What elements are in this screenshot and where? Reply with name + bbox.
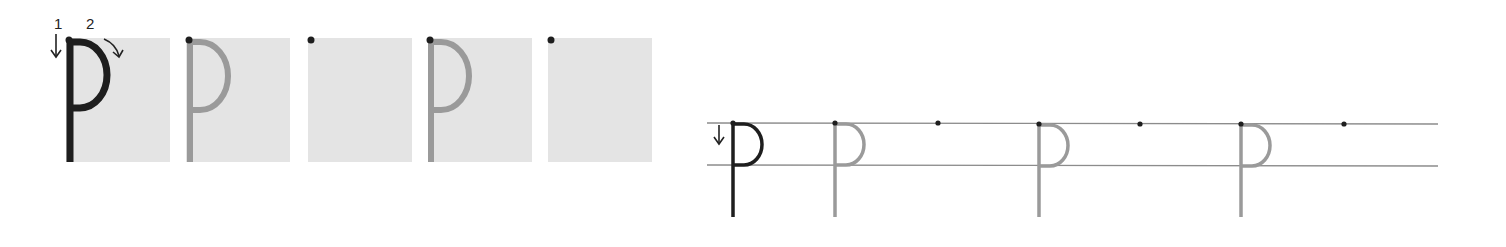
trace-letter-p-small-3 (1241, 124, 1270, 217)
start-dot (1137, 121, 1142, 126)
start-dot (935, 120, 940, 125)
model-letter-p-small (733, 123, 762, 217)
start-dot (1036, 121, 1041, 126)
start-dot (832, 120, 837, 125)
start-dot (1238, 121, 1243, 126)
handwriting-lines (0, 0, 1506, 247)
down-arrow-icon (714, 125, 724, 144)
trace-letter-p-small-1 (835, 123, 864, 217)
start-dot (1341, 121, 1346, 126)
top-guide-line (707, 123, 1438, 124)
trace-letter-p-small-2 (1039, 124, 1068, 217)
base-guide-line (707, 165, 1438, 166)
